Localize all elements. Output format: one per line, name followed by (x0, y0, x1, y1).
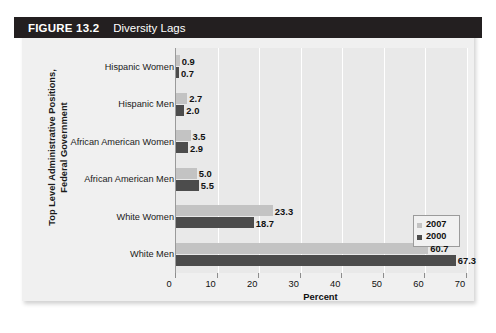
bar-value-label: 67.3 (458, 255, 476, 266)
legend-item-2007: 2007 (417, 219, 455, 231)
bar-value-label: 2.0 (186, 105, 199, 116)
category-label-african-american-women: African American Women (52, 137, 174, 147)
legend-swatch-2000-icon (417, 235, 422, 240)
bar-2007-white-men (176, 243, 428, 254)
category-label-hispanic-women: Hispanic Women (52, 62, 174, 72)
bar-value-label: 18.7 (256, 217, 274, 228)
x-tick-mark-20 (258, 273, 259, 278)
x-tick-label-70: 70 (455, 279, 465, 289)
x-tick-label-20: 20 (247, 279, 257, 289)
bar-2000-white-men (176, 255, 456, 266)
x-tick-label-50: 50 (372, 279, 382, 289)
bar-value-label: 5.0 (199, 168, 212, 179)
legend-label-2007: 2007 (426, 220, 446, 229)
gridline-30 (301, 48, 302, 273)
gridline-20 (259, 48, 260, 273)
bar-2007-hispanic-women (176, 55, 180, 66)
gridline-10 (218, 48, 219, 273)
x-tick-mark-60 (424, 273, 425, 278)
x-tick-label-10: 10 (205, 279, 215, 289)
gridline-50 (384, 48, 385, 273)
legend-item-2000: 2000 (417, 231, 455, 243)
x-tick-mark-70 (466, 273, 467, 278)
x-tick-mark-10 (217, 273, 218, 278)
bar-2000-african-american-men (176, 180, 199, 191)
x-tick-label-40: 40 (330, 279, 340, 289)
legend-swatch-2007-icon (417, 223, 422, 228)
category-axis-labels: White MenWhite WomenAfrican American Men… (52, 48, 174, 273)
bar-2000-hispanic-women (176, 67, 179, 78)
bar-value-label: 2.7 (189, 93, 202, 104)
x-tick-label-30: 30 (289, 279, 299, 289)
x-tick-mark-30 (300, 273, 301, 278)
bar-2007-white-women (176, 205, 273, 216)
bar-value-label: 3.5 (193, 130, 206, 141)
bar-value-label: 2.9 (190, 142, 203, 153)
bar-value-label: 0.7 (181, 67, 194, 78)
category-label-white-men: White Men (52, 249, 174, 259)
x-tick-label-60: 60 (413, 279, 423, 289)
legend-label-2000: 2000 (426, 232, 446, 241)
bar-2007-african-american-men (176, 168, 197, 179)
category-label-hispanic-men: Hispanic Men (52, 99, 174, 109)
gridline-40 (342, 48, 343, 273)
figure-header: FIGURE 13.2 Diversity Lags (14, 17, 482, 38)
chart-area: Top Level Administrative Positions, Fede… (22, 40, 474, 301)
category-label-white-women: White Women (52, 212, 174, 222)
x-tick-label-0: 0 (166, 279, 171, 289)
x-tick-mark-40 (341, 273, 342, 278)
bar-2007-african-american-women (176, 130, 191, 141)
bar-value-label: 23.3 (275, 205, 293, 216)
bar-value-label: 5.5 (201, 180, 214, 191)
figure-number: FIGURE 13.2 (28, 22, 99, 34)
bar-2000-african-american-women (176, 142, 188, 153)
bar-2000-hispanic-men (176, 105, 184, 116)
x-tick-mark-50 (383, 273, 384, 278)
gridline-70 (467, 48, 468, 273)
x-axis-title: Percent (175, 291, 466, 302)
gridline-0 (176, 48, 177, 273)
bar-value-label: 0.9 (182, 55, 195, 66)
bar-value-label: 60.7 (430, 243, 448, 254)
bar-2007-hispanic-men (176, 93, 187, 104)
figure-title: Diversity Lags (113, 22, 185, 34)
bar-2000-white-women (176, 217, 254, 228)
category-label-african-american-men: African American Men (52, 174, 174, 184)
figure-root: FIGURE 13.2 Diversity Lags Top Level Adm… (0, 0, 496, 333)
x-tick-mark-0 (175, 273, 176, 278)
